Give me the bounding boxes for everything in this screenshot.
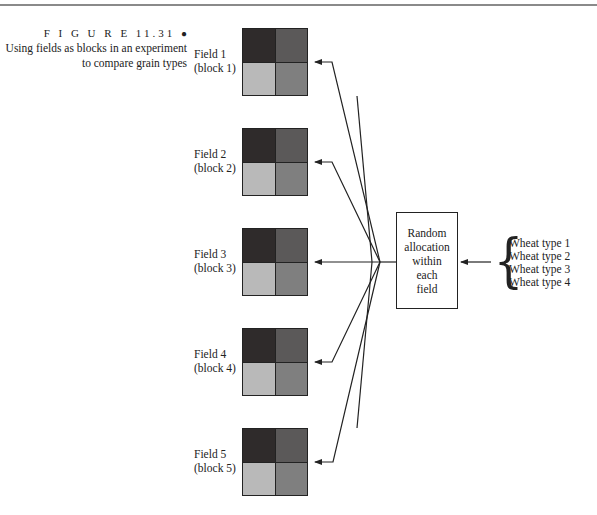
wheat-type-3: Wheat type 3 bbox=[509, 263, 570, 276]
wheat-type-2: Wheat type 2 bbox=[509, 250, 570, 263]
wheat-type-list: Wheat type 1 Wheat type 2 Wheat type 3 W… bbox=[509, 237, 570, 289]
wheat-type-1: Wheat type 1 bbox=[509, 237, 570, 250]
random-allocation-box: Random allocation within each field bbox=[396, 212, 458, 309]
wheat-type-4: Wheat type 4 bbox=[509, 276, 570, 289]
